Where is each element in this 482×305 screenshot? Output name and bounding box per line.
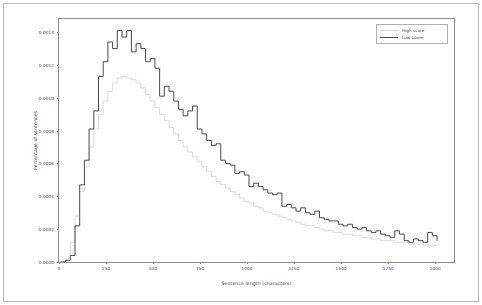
y-tick-label: 0.0006 [26,161,54,166]
x-tick-label: 1000 [242,266,253,271]
legend-item-high-score: High score [380,27,444,34]
x-tick-label: 0 [58,266,61,271]
x-tick-mark [247,262,248,264]
y-tick-mark [57,229,59,230]
y-tick-label: 0.0008 [26,128,54,133]
y-tick-mark [57,196,59,197]
y-tick-label: 0.0004 [26,194,54,199]
plot-axes [58,18,455,263]
chart-legend: High score Low score [376,24,448,44]
x-tick-mark [388,262,389,264]
x-tick-mark [153,262,154,264]
legend-label-low-score: Low score [402,35,423,40]
x-tick-label: 1500 [336,266,347,271]
y-tick-mark [57,98,59,99]
x-tick-label: 1750 [383,266,394,271]
y-tick-mark [57,32,59,33]
y-tick-label: 0.0010 [26,95,54,100]
legend-item-low-score: Low score [380,34,444,41]
x-tick-mark [59,262,60,264]
x-tick-label: 250 [102,266,110,271]
x-tick-label: 500 [149,266,157,271]
x-tick-mark [341,262,342,264]
y-tick-label: 0.0012 [26,62,54,67]
x-tick-mark [435,262,436,264]
legend-label-high-score: High score [402,28,424,33]
y-tick-mark [57,163,59,164]
legend-swatch-high-score [380,30,398,31]
y-tick-label: 0.0000 [26,260,54,265]
x-tick-label: 2000 [430,266,441,271]
y-tick-mark [57,65,59,66]
legend-swatch-low-score [380,37,398,38]
x-tick-mark [294,262,295,264]
y-axis-label: Percentage of sentences [33,18,38,263]
y-tick-label: 0.0002 [26,227,54,232]
x-tick-mark [106,262,107,264]
y-tick-label: 0.0014 [26,30,54,35]
x-axis-label: Sentence length (characters) [58,281,455,286]
plot-lines [59,19,454,262]
chart-figure: 0250500750100012501500175020000.00000.00… [0,0,482,305]
y-tick-mark [57,262,59,263]
x-tick-label: 1250 [289,266,300,271]
x-tick-label: 750 [196,266,204,271]
y-tick-mark [57,131,59,132]
x-tick-mark [200,262,201,264]
series-line [61,30,437,262]
